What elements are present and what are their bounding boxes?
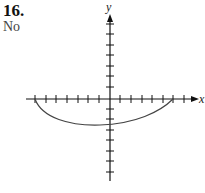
coordinate-graph: x y — [0, 0, 205, 193]
x-axis-arrow-icon — [191, 96, 199, 102]
y-axis-arrow-icon — [107, 14, 113, 22]
y-axis-label: y — [105, 0, 112, 14]
x-axis-label: x — [198, 92, 205, 106]
